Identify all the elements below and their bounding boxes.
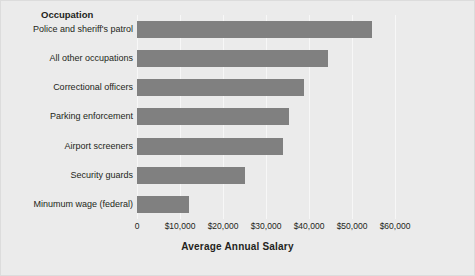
category-label-group: Police and sheriff's patrolAll other occ… bbox=[9, 15, 133, 219]
x-axis-tick-label-group: 0$10,000$20,000$30,000$40,000$50,000$60,… bbox=[137, 221, 395, 235]
bar bbox=[137, 21, 372, 38]
x-tick-label: $10,000 bbox=[165, 221, 196, 231]
x-tick-label: $50,000 bbox=[337, 221, 368, 231]
bar-row bbox=[137, 15, 372, 44]
bar-row bbox=[137, 73, 304, 102]
x-tick-label: $30,000 bbox=[251, 221, 282, 231]
gridline bbox=[352, 15, 353, 219]
bar bbox=[137, 167, 245, 184]
x-tick-label: $60,000 bbox=[380, 221, 411, 231]
x-tick-label: $20,000 bbox=[208, 221, 239, 231]
category-label: Police and sheriff's patrol bbox=[33, 15, 133, 44]
bar bbox=[137, 50, 328, 67]
category-label: Parking enforcement bbox=[50, 102, 133, 131]
bar-row bbox=[137, 132, 283, 161]
bar-row bbox=[137, 102, 289, 131]
bar-row bbox=[137, 161, 245, 190]
x-tick-label: 0 bbox=[135, 221, 140, 231]
category-label: Correctional officers bbox=[53, 73, 133, 102]
bar bbox=[137, 138, 283, 155]
x-tick-label: $40,000 bbox=[294, 221, 325, 231]
category-label: Minumum wage (federal) bbox=[33, 190, 133, 219]
category-label: All other occupations bbox=[49, 44, 133, 73]
bar-row bbox=[137, 190, 189, 219]
category-label: Airport screeners bbox=[64, 132, 133, 161]
bar bbox=[137, 79, 304, 96]
gridline bbox=[395, 15, 396, 219]
bar bbox=[137, 196, 189, 213]
bar-row bbox=[137, 44, 328, 73]
x-axis-title: Average Annual Salary bbox=[1, 241, 474, 252]
category-label: Security guards bbox=[70, 161, 133, 190]
bar bbox=[137, 108, 289, 125]
plot-area bbox=[137, 15, 395, 219]
bar-chart-figure: Occupation Police and sheriff's patrolAl… bbox=[0, 0, 475, 276]
